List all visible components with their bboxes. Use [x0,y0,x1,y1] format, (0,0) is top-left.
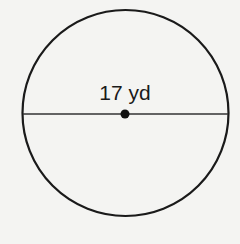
diagram-canvas: 17 yd [0,0,240,244]
diameter-label: 17 yd [99,81,150,104]
circle-diagram: 17 yd [0,0,240,244]
center-point [121,110,130,119]
